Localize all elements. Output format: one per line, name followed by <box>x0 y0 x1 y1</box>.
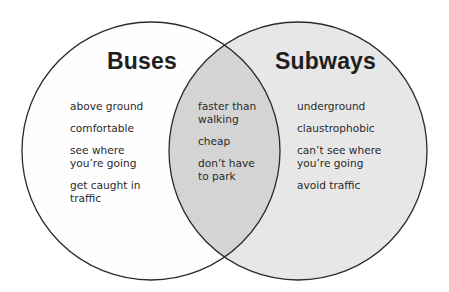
list-item: avoid traffic <box>297 179 407 192</box>
list-item: can’t see where you’re going <box>297 144 392 170</box>
list-item: comfortable <box>70 122 170 135</box>
list-item: underground <box>297 100 407 113</box>
list-item: claustrophobic <box>297 122 407 135</box>
list-item: above ground <box>70 100 170 113</box>
list-item: don’t have to park <box>198 157 264 183</box>
subways-title: Subways <box>275 48 376 75</box>
list-item: see where you’re going <box>70 144 155 170</box>
list-item: faster than walking <box>198 100 260 126</box>
list-item: get caught in traffic <box>70 179 152 205</box>
buses-list: above ground comfortable see where you’r… <box>70 100 170 214</box>
list-item: cheap <box>198 135 268 148</box>
overlap-list: faster than walking cheap don’t have to … <box>198 100 268 192</box>
buses-title: Buses <box>107 48 177 75</box>
subways-list: underground claustrophobic can’t see whe… <box>297 100 407 201</box>
